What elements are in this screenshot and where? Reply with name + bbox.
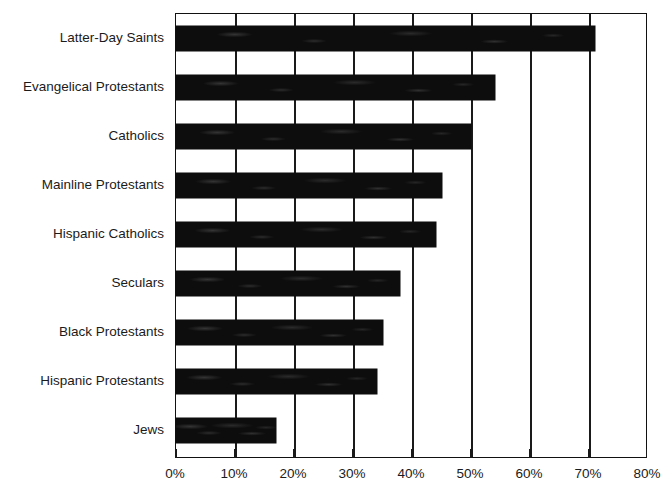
bar-band [176, 161, 646, 210]
x-axis-tick [470, 449, 472, 458]
x-axis-tick-label: 50% [456, 466, 483, 481]
bar-band [176, 14, 646, 63]
x-axis-tick-label: 0% [165, 466, 185, 481]
bar [176, 75, 495, 100]
x-axis-tick [411, 449, 413, 458]
bar-band [176, 112, 646, 161]
bar-band [176, 406, 646, 455]
x-axis-tick [588, 449, 590, 458]
bar [176, 271, 400, 296]
bar-band [176, 259, 646, 308]
x-axis-tick-label: 40% [397, 466, 424, 481]
bar [176, 26, 595, 51]
y-axis-label: Catholics [108, 123, 164, 148]
bar-band [176, 357, 646, 406]
x-axis-tick [352, 449, 354, 458]
y-axis-label: Latter-Day Saints [60, 25, 164, 50]
bar [176, 222, 436, 247]
y-axis-label: Black Protestants [59, 319, 164, 344]
x-axis-tick [234, 449, 236, 458]
x-axis-tick [529, 449, 531, 458]
x-axis-tick [175, 449, 177, 458]
x-axis-tick-label: 20% [279, 466, 306, 481]
y-axis-label: Mainline Protestants [42, 172, 164, 197]
y-axis-label: Hispanic Catholics [53, 221, 164, 246]
bar [176, 320, 383, 345]
y-axis-label: Seculars [111, 270, 164, 295]
bar [176, 124, 471, 149]
y-axis-category-labels: Latter-Day SaintsEvangelical Protestants… [0, 13, 169, 458]
bar-band [176, 308, 646, 357]
x-axis-tick-label: 60% [515, 466, 542, 481]
bar [176, 418, 276, 443]
x-axis-tick [646, 449, 648, 458]
bar-band [176, 210, 646, 259]
x-axis-tick-label: 10% [220, 466, 247, 481]
plot-area [175, 13, 647, 458]
bar [176, 369, 377, 394]
x-axis-tick [293, 449, 295, 458]
x-axis-tick-label: 80% [633, 466, 660, 481]
x-axis-tick-label: 30% [338, 466, 365, 481]
bar-band [176, 63, 646, 112]
x-axis: 0%10%20%30%40%50%60%70%80% [175, 458, 647, 499]
x-axis-tick-label: 70% [574, 466, 601, 481]
y-axis-label: Evangelical Protestants [23, 74, 164, 99]
y-axis-label: Hispanic Protestants [40, 368, 164, 393]
bar-chart: Latter-Day SaintsEvangelical Protestants… [0, 0, 671, 499]
y-axis-label: Jews [133, 417, 164, 442]
bar [176, 173, 442, 198]
